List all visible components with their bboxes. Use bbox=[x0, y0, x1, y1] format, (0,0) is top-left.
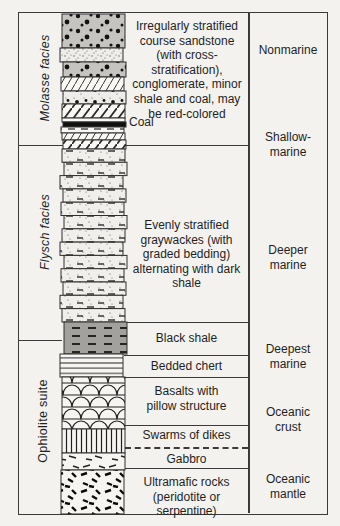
dikes-label: Swarms of dikes bbox=[125, 428, 248, 443]
conglomerate-pattern bbox=[62, 14, 125, 48]
facies-label-molasse: Molasse facies bbox=[38, 35, 52, 122]
cross-bedded-sandstone-pattern bbox=[62, 133, 125, 140]
environment-deepest-marine: Deepest marine bbox=[249, 342, 327, 371]
shale-pattern bbox=[61, 127, 124, 133]
pebbly-sandstone-pattern bbox=[63, 91, 126, 104]
graywacke-bed-pattern bbox=[61, 269, 124, 282]
graywacke-bed-pattern bbox=[64, 216, 127, 229]
graywacke-bed-pattern bbox=[63, 282, 126, 295]
ultramafic-label: Ultramafic rocks (peridotite or serpenti… bbox=[123, 475, 250, 519]
ultramafic-top-line bbox=[124, 468, 248, 469]
pillow-basalt-pattern bbox=[62, 377, 125, 429]
stratigraphic-column-figure: Molasse facies Flysch facies Ophiolite s… bbox=[0, 0, 340, 526]
bedded-chert-top-line bbox=[124, 355, 248, 356]
dikes-top-line bbox=[124, 425, 248, 426]
coal-label: Coal bbox=[129, 115, 154, 129]
sheeted-dikes-pattern bbox=[62, 429, 125, 453]
strat-column bbox=[54, 12, 130, 515]
coal-bed-layer bbox=[63, 122, 126, 127]
graywacke-bed-pattern bbox=[62, 149, 125, 162]
graywacke-bed-pattern bbox=[62, 309, 125, 322]
molasse-description: Irregularly stratified course sandstone … bbox=[127, 19, 247, 121]
graywacke-bed-pattern bbox=[64, 255, 127, 268]
environment-deeper-marine: Deeper marine bbox=[249, 243, 327, 272]
graywacke-bed-pattern bbox=[63, 189, 126, 202]
ultramafic-rock-pattern bbox=[61, 470, 124, 514]
environment-oceanic-crust: Oceanic crust bbox=[249, 405, 327, 434]
cross-bedded-sandstone-pattern bbox=[62, 104, 125, 118]
basalts-label: Basalts with pillow structure bbox=[125, 384, 248, 413]
facies-label-flysch: Flysch facies bbox=[38, 194, 52, 270]
bedded-chert-pattern bbox=[60, 354, 123, 377]
shale-pattern bbox=[62, 118, 125, 122]
graywacke-bed-pattern bbox=[64, 162, 127, 175]
black-shale-pattern bbox=[64, 322, 127, 354]
graywacke-bed-pattern bbox=[60, 242, 123, 255]
graywacke-bed-pattern bbox=[61, 202, 124, 215]
black-shale-top-line bbox=[124, 322, 248, 323]
environment-oceanic-mantle: Oceanic mantle bbox=[249, 472, 327, 501]
gabbro-dashed-boundary-line bbox=[125, 447, 248, 449]
flysch-description: Evenly stratified graywackes (with grade… bbox=[125, 218, 248, 291]
cross-bedded-sandstone-pattern bbox=[63, 140, 126, 149]
gabbro-pattern bbox=[62, 453, 125, 470]
basalt-top-line bbox=[124, 377, 248, 378]
stippled-sandstone-pattern bbox=[60, 48, 123, 62]
black-shale-label: Black shale bbox=[125, 331, 248, 346]
gabbro-label: Gabbro bbox=[125, 452, 248, 467]
facies-label-ophiolite: Ophiolite suite bbox=[36, 379, 50, 463]
graywacke-bed-pattern bbox=[60, 176, 123, 189]
bedded-chert-label: Bedded chert bbox=[125, 359, 248, 374]
molasse-flysch-boundary-line bbox=[18, 145, 248, 146]
environment-shallow-marine: Shallow- marine bbox=[249, 130, 327, 159]
graywacke-bed-pattern bbox=[62, 229, 125, 242]
environment-nonmarine: Nonmarine bbox=[249, 43, 327, 58]
conglomerate-pattern bbox=[63, 62, 126, 77]
graywacke-bed-pattern bbox=[60, 295, 123, 308]
cross-bedded-sandstone-pattern bbox=[61, 77, 124, 91]
